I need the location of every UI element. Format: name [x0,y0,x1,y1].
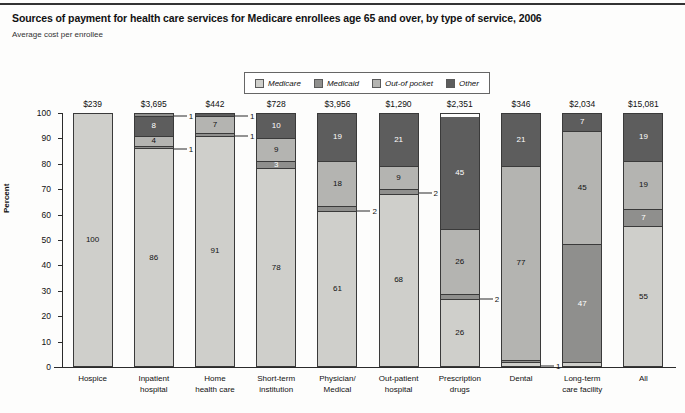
bar-segment[interactable]: 100 [74,114,112,366]
bar-group[interactable]: $3,695118648 [134,113,174,367]
legend-item-medicaid[interactable]: Medicaid [314,79,359,88]
bar-segment[interactable]: 61 [318,212,356,366]
stacked-bar[interactable]: 5571919 [623,113,663,367]
bar-segment[interactable]: 21 [502,114,540,167]
bar-segment[interactable]: 18 [318,162,356,207]
segment-value-label: 18 [333,180,342,188]
bar-segment[interactable]: 47 [563,245,601,363]
y-tick-mark [58,367,63,368]
bar-segment[interactable]: 86 [135,149,173,366]
bar-group[interactable]: $728783910 [256,113,296,367]
segment-callout: 2 [480,294,499,303]
bar-segment[interactable]: 8 [135,117,173,137]
bar-segment[interactable]: 26 [441,230,479,296]
legend-label: Medicaid [327,79,359,88]
stacked-bar[interactable]: 47457 [562,113,602,367]
callout-leader-line [419,193,432,194]
legend-swatch-icon [255,79,264,88]
bar-segment[interactable] [196,114,234,117]
segment-value-label: 7 [641,214,645,222]
y-tick-label: 60 [0,210,51,220]
callout-leader-line [480,298,493,299]
bar-segment[interactable]: 77 [502,167,540,361]
bar-group[interactable]: $3,9562611819 [317,113,357,367]
bar-segment[interactable]: 3 [257,162,295,170]
bar-segment[interactable]: 7 [196,117,234,135]
bar-segment[interactable] [441,295,479,300]
segment-value-label: 78 [272,264,281,272]
bar-segment[interactable]: 7 [624,210,662,228]
bar-segment[interactable]: 55 [624,227,662,366]
bar-segment[interactable]: 9 [257,139,295,162]
segment-value-label: 100 [86,236,99,244]
segment-value-label: 91 [211,247,220,255]
bar-group[interactable]: $15,0815571919 [623,113,663,367]
bar-segment[interactable]: 21 [380,114,418,167]
legend-item-out-of-pocket[interactable]: Out-of pocket [372,79,433,88]
bar-segment[interactable]: 45 [563,132,601,245]
bar-segment[interactable]: 26 [441,300,479,366]
callout-leader-line [357,210,370,211]
bar-segment[interactable]: 45 [441,117,479,230]
x-axis-category-label: All [603,374,683,385]
bar-value-label: $239 [83,99,102,109]
chart-page: Sources of payment for health care servi… [0,0,685,413]
bar-segment[interactable] [380,190,418,195]
bar-group[interactable]: $34617721 [501,113,541,367]
legend-swatch-icon [446,79,455,88]
bar-segment[interactable] [318,207,356,212]
bar-segment[interactable]: 91 [196,137,234,366]
bar-segment[interactable]: 68 [380,195,418,366]
stacked-bar[interactable]: 611819 [317,113,357,367]
segment-value-label: 9 [396,174,400,182]
stacked-bar[interactable]: 100 [73,113,113,367]
bar-segment[interactable]: 7 [563,114,601,132]
callout-leader-line [235,116,248,117]
bar-group[interactable]: $2,03447457 [562,113,602,367]
bar-value-label: $728 [267,99,286,109]
bar-group[interactable]: $239100 [73,113,113,367]
stacked-bar[interactable]: 68921 [379,113,419,367]
bar-segment[interactable] [135,114,173,117]
segment-value-label: 45 [578,184,587,192]
callout-label: 1 [250,132,254,141]
stacked-bar[interactable]: 917 [195,113,235,367]
bar-segment[interactable]: 10 [257,114,295,139]
y-tick-label: 50 [0,235,51,245]
bar-segment[interactable] [196,134,234,137]
bar-segment[interactable] [563,363,601,366]
segment-value-label: 26 [455,258,464,266]
segment-callout: 1 [174,112,193,121]
stacked-bar[interactable]: 262645 [440,113,480,367]
bar-segment[interactable]: 19 [624,162,662,210]
bar-segment[interactable] [502,363,540,366]
segment-callout: 1 [235,132,254,141]
bar-segment[interactable]: 19 [318,114,356,162]
bar-value-label: $442 [206,99,225,109]
bar-segment[interactable] [502,361,540,364]
segment-value-label: 4 [152,137,156,145]
bar-segment[interactable]: 9 [380,167,418,190]
legend-label: Other [459,79,479,88]
top-divider [0,3,685,5]
segment-value-label: 8 [152,122,156,130]
bar-value-label: $3,956 [324,99,350,109]
stacked-bar[interactable]: 783910 [256,113,296,367]
bar-segment[interactable] [135,147,173,150]
bar-group[interactable]: $2,3512262645 [440,113,480,367]
y-tick-label: 10 [0,337,51,347]
legend-item-other[interactable]: Other [446,79,479,88]
callout-label: 2 [495,294,499,303]
segment-value-label: 55 [639,293,648,301]
bar-group[interactable]: $44211917 [195,113,235,367]
segment-value-label: 19 [333,133,342,141]
legend-item-medicare[interactable]: Medicare [255,79,301,88]
bar-segment[interactable]: 4 [135,137,173,147]
stacked-bar[interactable]: 8648 [134,113,174,367]
segment-value-label: 47 [578,300,587,308]
bar-segment[interactable]: 78 [257,169,295,366]
segment-value-label: 45 [455,169,464,177]
bar-segment[interactable]: 19 [624,114,662,162]
stacked-bar[interactable]: 7721 [501,113,541,367]
bar-group[interactable]: $1,290268921 [379,113,419,367]
